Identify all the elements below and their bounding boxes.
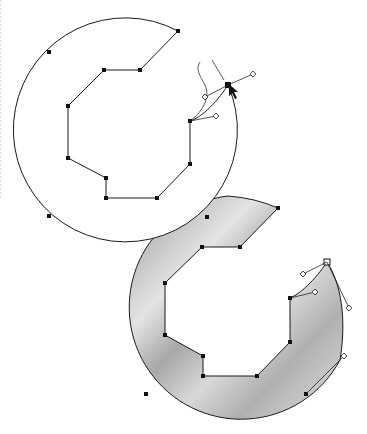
outline-c-shape[interactable] bbox=[13, 18, 237, 242]
diagram-canvas bbox=[0, 0, 367, 434]
